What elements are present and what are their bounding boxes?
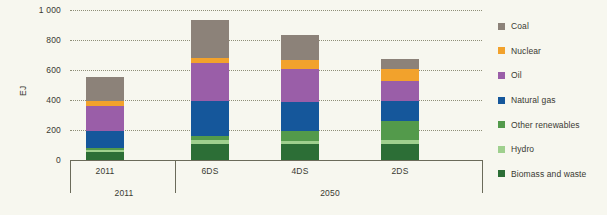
stacked-bar-chart: 02004006008001 000 EJ 20116DS4DS2DS 2011… [0,0,607,215]
gridline [70,70,482,71]
category-label: 6DS [170,166,250,176]
axis-tick-left [70,160,71,193]
y-tick-label: 400 [46,96,61,105]
y-tick-label: 800 [46,36,61,45]
legend-label: Nuclear [511,46,541,56]
gridline [70,130,482,131]
bar-segment [381,101,419,121]
legend-swatch-icon [498,23,505,30]
bar-segment [381,144,419,160]
y-tick-label: 0 [56,156,61,165]
bar-segment [381,59,419,69]
y-tick-label: 1 000 [39,6,61,15]
x-axis-baseline [70,160,482,161]
legend-label: Coal [511,21,529,31]
legend-swatch-icon [498,146,505,153]
legend-item[interactable]: Nuclear [498,39,606,64]
category-label: 2011 [65,166,145,176]
y-tick-label: 600 [46,66,61,75]
gridline [70,10,482,11]
bar-segment [281,69,319,102]
bar-segment [381,81,419,101]
bar-segment [86,131,124,148]
legend-item[interactable]: Biomass and waste [498,162,606,187]
bar-segment [86,106,124,132]
bar-segment [381,69,419,82]
legend-swatch-icon [498,170,505,177]
y-tick-label: 200 [46,126,61,135]
gridline [70,100,482,101]
bar-segment [86,152,124,160]
bar-segment [281,35,319,61]
legend-label: Natural gas [511,95,556,105]
legend-label: Hydro [511,144,534,154]
bar-segment [281,60,319,68]
legend-swatch-icon [498,72,505,79]
bar-segment [191,63,229,101]
bar-segment [191,20,229,58]
bar-segment [191,101,229,136]
bar-4ds [281,35,319,160]
legend-item[interactable]: Hydro [498,137,606,162]
legend-swatch-icon [498,121,505,128]
legend-swatch-icon [498,47,505,54]
category-label: 2DS [360,166,440,176]
category-label: 4DS [260,166,340,176]
bar-segment [86,77,124,101]
axis-tick-right [482,160,483,193]
bar-segment [191,144,229,161]
legend-item[interactable]: Coal [498,14,606,39]
legend-label: Biomass and waste [511,169,586,179]
bar-segment [281,131,319,141]
bar-segment [281,144,319,160]
bar-segment [381,121,419,140]
bar-segment [281,102,319,131]
bar-2011 [86,77,124,160]
legend-label: Other renewables [511,120,580,130]
bar-6ds [191,20,229,160]
legend-item[interactable]: Oil [498,63,606,88]
legend-swatch-icon [498,97,505,104]
group-label: 2011 [84,188,164,198]
bar-2ds [381,59,419,160]
y-axis-tick-labels: 02004006008001 000 [0,10,66,160]
legend-item[interactable]: Natural gas [498,88,606,113]
chart-legend: CoalNuclearOilNatural gasOther renewable… [498,14,606,186]
legend-label: Oil [511,70,522,80]
y-axis-title: EJ [18,85,28,96]
plot-area [70,10,482,160]
axis-tick-divider [175,160,176,193]
legend-item[interactable]: Other renewables [498,112,606,137]
gridline [70,40,482,41]
group-label: 2050 [290,188,370,198]
